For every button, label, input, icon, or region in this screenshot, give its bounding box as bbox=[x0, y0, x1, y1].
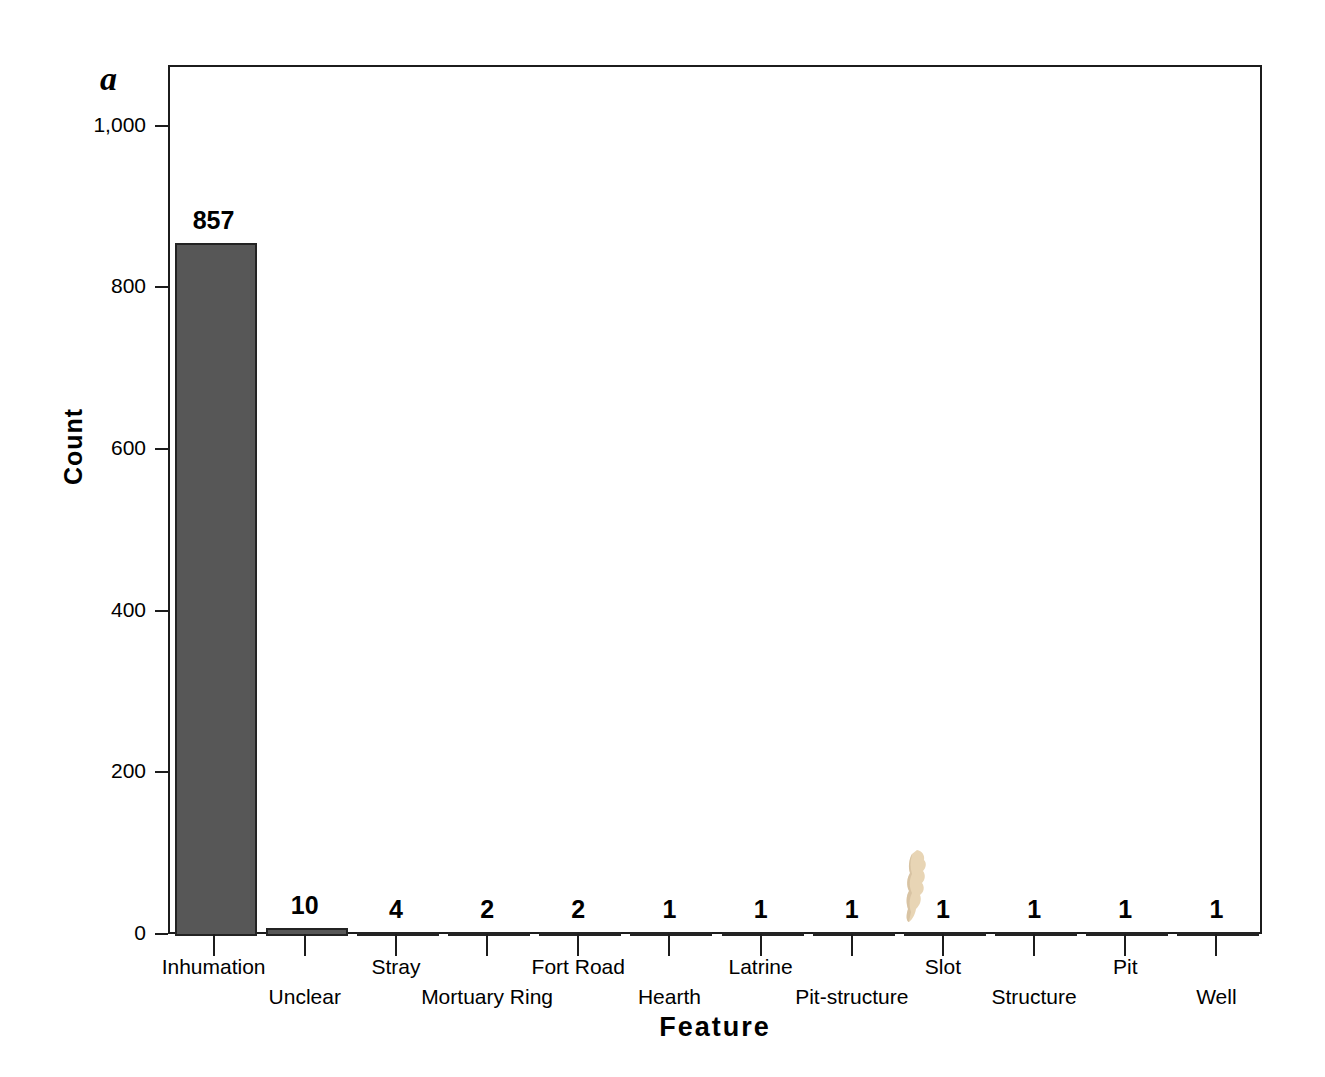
y-axis-title: Count bbox=[59, 367, 88, 527]
y-tick-mark bbox=[155, 610, 168, 612]
x-tick-mark bbox=[213, 934, 215, 956]
bar-value-label: 857 bbox=[154, 206, 274, 235]
y-tick-label: 600 bbox=[111, 436, 146, 460]
x-tick-mark bbox=[577, 934, 579, 956]
bar bbox=[722, 932, 804, 936]
bar-value-label: 1 bbox=[1156, 895, 1276, 924]
bar bbox=[539, 932, 621, 936]
bar bbox=[995, 932, 1077, 936]
y-tick-mark bbox=[155, 933, 168, 935]
bar bbox=[813, 932, 895, 936]
y-tick-mark bbox=[155, 771, 168, 773]
bar bbox=[266, 928, 348, 936]
x-tick-mark bbox=[668, 934, 670, 956]
bar bbox=[1086, 932, 1168, 936]
panel-letter-label: a bbox=[100, 62, 117, 96]
bar bbox=[175, 243, 257, 936]
bar bbox=[357, 932, 439, 936]
bar bbox=[904, 932, 986, 936]
y-tick-label: 400 bbox=[111, 598, 146, 622]
y-tick-label: 0 bbox=[134, 921, 146, 945]
x-axis-title: Feature bbox=[168, 1012, 1262, 1043]
figure-panel-a: a Count 02004006008001,000 8571042211111… bbox=[0, 0, 1325, 1077]
x-tick-mark bbox=[942, 934, 944, 956]
y-tick-label: 200 bbox=[111, 759, 146, 783]
y-tick-mark bbox=[155, 448, 168, 450]
y-tick-label: 1,000 bbox=[93, 113, 146, 137]
x-tick-mark bbox=[760, 934, 762, 956]
x-tick-mark bbox=[851, 934, 853, 956]
plot-area bbox=[168, 65, 1262, 934]
x-tick-mark bbox=[486, 934, 488, 956]
y-tick-mark bbox=[155, 286, 168, 288]
x-tick-mark bbox=[1124, 934, 1126, 956]
x-tick-mark bbox=[1215, 934, 1217, 956]
y-tick-mark bbox=[155, 125, 168, 127]
x-tick-mark bbox=[304, 934, 306, 956]
x-tick-mark bbox=[395, 934, 397, 956]
x-tick-label: Well bbox=[1106, 985, 1325, 1009]
bar bbox=[1177, 932, 1259, 936]
bar bbox=[630, 932, 712, 936]
x-tick-label: Pit bbox=[1015, 955, 1235, 979]
y-tick-label: 800 bbox=[111, 274, 146, 298]
x-tick-mark bbox=[1033, 934, 1035, 956]
bar bbox=[448, 932, 530, 936]
